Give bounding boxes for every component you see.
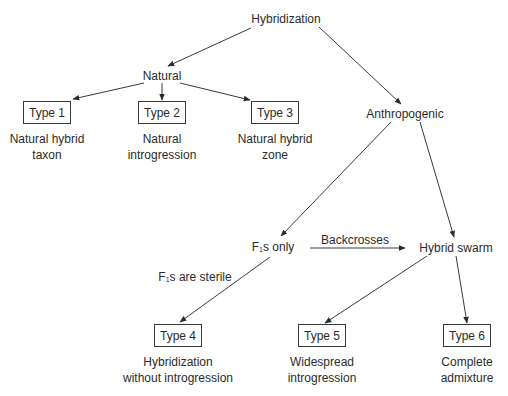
- sterile-suffix: s are sterile: [170, 270, 232, 284]
- type-6-caption: Complete admixture: [441, 354, 494, 386]
- hybridization-classification-diagram: Hybridization Natural Anthropogenic F1s …: [0, 0, 508, 396]
- type-1-box: Type 1: [23, 101, 71, 124]
- type-3-box: Type 3: [251, 101, 299, 124]
- caption-line: Natural hybrid: [238, 131, 313, 147]
- type-4-caption: Hybridization without introgression: [123, 354, 233, 386]
- caption-line: admixture: [441, 370, 494, 386]
- type-4-box: Type 4: [154, 324, 202, 347]
- edge-hybridization-natural: [168, 28, 251, 66]
- caption-line: introgression: [128, 147, 197, 163]
- type-2-caption: Natural introgression: [128, 131, 197, 163]
- diagram-edges: [0, 0, 508, 396]
- caption-line: taxon: [10, 147, 85, 163]
- edge-natural-type3: [180, 83, 250, 100]
- type-1-caption: Natural hybrid taxon: [10, 131, 85, 163]
- edge-swarm-type5: [325, 256, 427, 323]
- type-2-box: Type 2: [138, 101, 186, 124]
- edge-label-backcrosses: Backcrosses: [321, 233, 389, 247]
- type-6-box: Type 6: [443, 324, 491, 347]
- edge-swarm-type6: [456, 256, 467, 323]
- node-f1s-only: F1s only: [252, 240, 295, 257]
- node-hybridization: Hybridization: [251, 12, 320, 26]
- caption-line: Natural: [128, 131, 197, 147]
- f1-only-suffix: s only: [263, 240, 294, 254]
- caption-line: Widespread: [288, 354, 357, 370]
- caption-line: Complete: [441, 354, 494, 370]
- node-hybrid-swarm: Hybrid swarm: [419, 241, 492, 255]
- caption-line: without introgression: [123, 370, 233, 386]
- edge-anthropogenic-swarm: [420, 122, 454, 237]
- type-5-box: Type 5: [298, 324, 346, 347]
- edge-natural-type1: [73, 83, 144, 99]
- node-natural: Natural: [143, 69, 182, 83]
- edge-hybridization-anthropogenic: [319, 27, 401, 104]
- type-3-caption: Natural hybrid zone: [238, 131, 313, 163]
- type-5-caption: Widespread introgression: [288, 354, 357, 386]
- edge-f1-type4: [180, 257, 270, 322]
- caption-line: Natural hybrid: [10, 131, 85, 147]
- node-anthropogenic: Anthropogenic: [366, 107, 443, 121]
- caption-line: introgression: [288, 370, 357, 386]
- caption-line: zone: [238, 147, 313, 163]
- caption-line: Hybridization: [123, 354, 233, 370]
- edge-label-f1s-sterile: F1s are sterile: [158, 270, 231, 287]
